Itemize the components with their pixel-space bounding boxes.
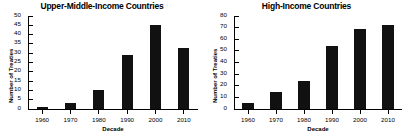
y-axis-tick-mark [235,62,239,63]
bar [270,92,281,109]
page-title: Upper-Middle-Income Countries [0,1,204,11]
plot-area: 0510152025303540455019601970198019902000… [28,16,198,110]
x-axis-tick-mark [98,110,99,114]
bar [37,107,48,109]
y-axis-line [28,16,29,110]
y-axis-tick-mark [235,85,239,86]
x-axis-tick-label: 1970 [59,117,83,123]
x-axis-tick-label: 1960 [30,117,54,123]
bar [382,25,393,109]
y-axis-tick-mark [235,39,239,40]
y-axis-tick-label: 35 [14,39,21,45]
x-axis-tick-mark [304,110,305,114]
y-axis-tick-label: 15 [14,77,21,83]
y-axis-tick-mark [29,53,33,54]
x-axis-tick-mark [332,110,333,114]
y-axis-tick-mark [235,97,239,98]
bar [298,81,309,109]
x-axis-tick-label: 1990 [115,117,139,123]
x-axis-tick-label: 1990 [320,117,344,123]
y-axis-tick-label: 0 [18,105,21,111]
bar [326,46,337,109]
bar [242,103,253,109]
x-axis-tick-label: 1970 [264,117,288,123]
chart-figure: Upper-Middle-Income Countries Number of … [0,0,409,139]
y-axis-tick-label: 45 [14,21,21,27]
x-axis-tick-label: 1960 [236,117,260,123]
y-axis-tick-label: 50 [220,46,227,52]
y-axis-tick-label: 80 [220,12,227,18]
bar [93,90,104,109]
y-axis-tick-label: 40 [14,30,21,36]
x-axis-title: Decade [28,126,198,132]
x-axis-tick-mark [127,110,128,114]
x-axis-tick-mark [155,110,156,114]
chart-panel-upper-middle-income: Upper-Middle-Income Countries Number of … [0,0,204,139]
y-axis-tick-mark [29,99,33,100]
x-axis-line [28,109,198,110]
y-axis-tick-mark [29,71,33,72]
x-axis-tick-mark [183,110,184,114]
y-axis-tick-label: 40 [220,58,227,64]
bar [178,48,189,109]
y-axis-tick-label: 30 [14,49,21,55]
x-axis-tick-mark [276,110,277,114]
y-axis-tick-label: 10 [220,93,227,99]
x-axis-tick-label: 1980 [292,117,316,123]
y-axis-tick-mark [235,50,239,51]
plot-area: 0102030405060708019601970198019902000201… [234,16,402,110]
bar [150,25,161,109]
chart-panel-high-income: High-Income Countries Number of Treaties… [204,0,409,139]
y-axis-tick-mark [29,25,33,26]
bar [354,29,365,109]
x-axis-tick-mark [70,110,71,114]
x-axis-title: Decade [234,126,402,132]
y-axis-tick-label: 0 [224,105,227,111]
y-axis-tick-label: 25 [14,58,21,64]
page-title: High-Income Countries [204,1,409,11]
y-axis-tick-mark [235,109,239,110]
x-axis-tick-label: 2000 [348,117,372,123]
y-axis-tick-label: 5 [18,95,21,101]
bar [65,103,76,109]
y-axis-tick-mark [235,74,239,75]
y-axis-tick-label: 10 [14,86,21,92]
x-axis-tick-label: 2010 [376,117,400,123]
y-axis-tick-mark [29,81,33,82]
y-axis-tick-mark [235,16,239,17]
y-axis-tick-label: 70 [220,23,227,29]
y-axis-tick-mark [235,27,239,28]
x-axis-tick-label: 2010 [172,117,196,123]
bar [122,55,133,109]
x-axis-tick-label: 1980 [87,117,111,123]
y-axis-tick-mark [29,16,33,17]
y-axis-tick-mark [29,34,33,35]
y-axis-tick-label: 30 [220,70,227,76]
y-axis-tick-label: 20 [14,67,21,73]
y-axis-title: Number of Treaties [8,49,14,103]
x-axis-tick-mark [42,110,43,114]
x-axis-tick-mark [360,110,361,114]
y-axis-tick-label: 50 [14,12,21,18]
x-axis-tick-mark [248,110,249,114]
x-axis-line [234,109,402,110]
x-axis-tick-label: 2000 [144,117,168,123]
y-axis-tick-label: 60 [220,35,227,41]
y-axis-tick-mark [29,109,33,110]
y-axis-tick-mark [29,90,33,91]
y-axis-tick-mark [29,62,33,63]
y-axis-tick-label: 20 [220,81,227,87]
x-axis-tick-mark [388,110,389,114]
y-axis-tick-mark [29,43,33,44]
y-axis-title: Number of Treaties [212,49,218,103]
